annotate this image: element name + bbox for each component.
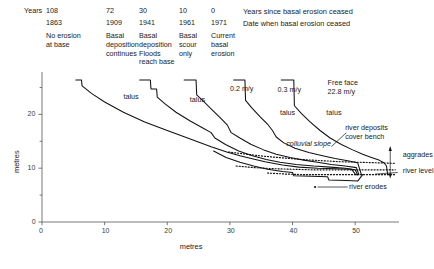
aggrades-arrow-head-down bbox=[389, 174, 392, 179]
annotation-rate-03: 0.3 m/y bbox=[277, 86, 301, 95]
annotation-aggrades: aggrades bbox=[403, 151, 433, 160]
x-tick-label-10: 10 bbox=[102, 227, 110, 234]
x-axis-title: metres bbox=[180, 242, 203, 251]
aggrades-arrow-head-up bbox=[389, 146, 392, 151]
annotation-colluvial-slope: colluvial slope bbox=[286, 140, 331, 149]
y-tick-label-0: 0 bbox=[32, 218, 36, 225]
annotation-river-level: river level bbox=[403, 167, 434, 176]
leader-river-level bbox=[375, 172, 398, 174]
x-tick-label-50: 50 bbox=[352, 227, 360, 234]
y-tick-label-20: 20 bbox=[28, 110, 36, 117]
annotation-rate-02: 0.2 m/y bbox=[230, 85, 254, 94]
x-tick-label-30: 30 bbox=[227, 227, 235, 234]
annotation-talus-3: talus bbox=[280, 109, 295, 118]
annotation-free-face: Free face 22.8 m/y bbox=[328, 79, 358, 96]
x-tick-label-0: 0 bbox=[39, 227, 43, 234]
x-tick-label-40: 40 bbox=[290, 227, 298, 234]
y-tick-label-10: 10 bbox=[28, 164, 36, 171]
annotation-river-deposits: river deposits cover bench bbox=[345, 124, 388, 141]
annotation-talus-2: talus bbox=[190, 96, 205, 105]
x-tick-label-20: 20 bbox=[164, 227, 172, 234]
annotation-river-erodes: river erodes bbox=[349, 183, 387, 192]
annotation-talus-1: talus bbox=[123, 93, 138, 102]
y-axis-title: metres bbox=[12, 151, 21, 174]
annotation-talus-4: talus bbox=[326, 109, 341, 118]
river-erodes-dot bbox=[314, 186, 316, 188]
